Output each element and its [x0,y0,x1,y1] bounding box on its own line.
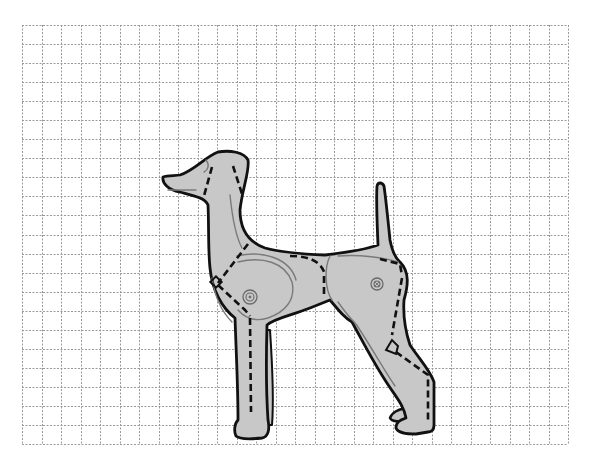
forearm-line [250,318,251,412]
dog-diagram: Dog skeletal angulation illustration on … [0,0,594,476]
grid-background [22,25,569,445]
